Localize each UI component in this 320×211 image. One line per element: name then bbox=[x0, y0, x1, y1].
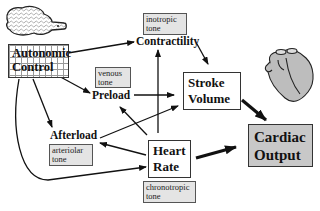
arrow-autonomic-afterload bbox=[33, 79, 52, 127]
cardiac-output-line2: Output bbox=[254, 146, 307, 164]
heart-rate-line2: Rate bbox=[153, 159, 186, 175]
heart-icon bbox=[265, 49, 313, 102]
arrow-heartrate-afterload bbox=[100, 143, 146, 155]
node-preload: Preload bbox=[92, 89, 130, 102]
arrow-afterload-strokevolume bbox=[100, 106, 178, 138]
node-cardiac-output: Cardiac Output bbox=[248, 124, 313, 167]
arrow-autonomic-contractility bbox=[68, 42, 134, 53]
tone-inotropic-line2: tone bbox=[146, 24, 184, 33]
tone-arteriolar: arteriolar tone bbox=[49, 144, 93, 166]
node-contractility: Contractility bbox=[136, 35, 199, 48]
tone-arteriolar-line2: tone bbox=[52, 155, 90, 164]
node-afterload: Afterload bbox=[50, 129, 97, 142]
tone-venous: venous tone bbox=[95, 67, 131, 88]
node-stroke-volume: Stroke Volume bbox=[183, 72, 241, 110]
tone-inotropic: inotropic tone bbox=[143, 13, 187, 35]
brain-icon bbox=[7, 6, 67, 35]
arrow-strokevolume-cardiacoutput bbox=[242, 100, 266, 120]
tone-chronotropic: chronotropic tone bbox=[143, 181, 196, 203]
heart-rate-line1: Heart bbox=[153, 143, 186, 159]
stroke-volume-line1: Stroke bbox=[188, 75, 236, 91]
stroke-volume-line2: Volume bbox=[188, 91, 236, 107]
node-autonomic-control: Autonomic Control bbox=[8, 44, 69, 78]
autonomic-control-line2: Control bbox=[12, 61, 65, 75]
cardiac-output-diagram: Autonomic Control inotropic tone Contrac… bbox=[0, 0, 320, 211]
autonomic-control-line1: Autonomic bbox=[12, 47, 65, 61]
arrow-heartrate-cardiacoutput bbox=[196, 147, 236, 158]
tone-venous-line2: tone bbox=[98, 78, 128, 87]
tone-chronotropic-line2: tone bbox=[146, 192, 193, 201]
node-heart-rate: Heart Rate bbox=[148, 140, 191, 178]
cardiac-output-line1: Cardiac bbox=[254, 128, 307, 146]
